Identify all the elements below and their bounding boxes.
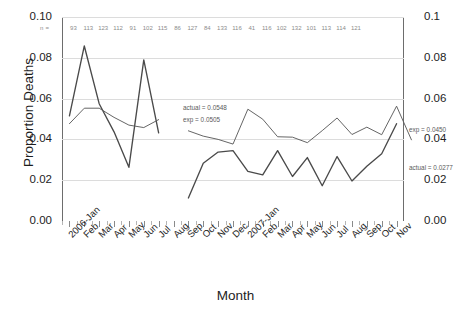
y-tick-label: 0.04 — [14, 132, 52, 144]
annotation-exp-right: exp = 0.0450 — [409, 126, 446, 133]
x-tick-minor — [62, 221, 63, 225]
n-value: 115 — [158, 25, 168, 31]
n-value: 113 — [84, 25, 94, 31]
n-value: 91 — [130, 25, 137, 31]
n-value: 133 — [217, 25, 227, 31]
n-value: 112 — [113, 25, 123, 31]
y-tick-label: 0.08 — [424, 51, 464, 63]
y-tick-label: 0.08 — [14, 51, 52, 63]
x-tick — [159, 221, 160, 227]
n-row-label: n = — [40, 25, 49, 31]
n-value: 101 — [306, 25, 316, 31]
x-tick — [174, 221, 175, 227]
data-series-lines — [62, 17, 404, 221]
series-line-expected-period-1 — [69, 108, 158, 127]
y-tick-label: 0.00 — [424, 214, 464, 226]
x-tick — [397, 221, 398, 227]
n-value: 123 — [98, 25, 108, 31]
n-value: 102 — [143, 25, 153, 31]
x-axis-title: Month — [0, 288, 471, 303]
x-tick — [352, 221, 353, 227]
y-tick-label: 0.02 — [14, 173, 52, 185]
annotation-exp-left: exp = 0.0505 — [183, 116, 220, 123]
y-tick-label: 0.00 — [14, 214, 52, 226]
series-line-actual-period-1 — [69, 46, 158, 167]
y-tick-label: 0.04 — [424, 132, 464, 144]
y-tick-label: 0.06 — [14, 92, 52, 104]
series-line-expected-period-2 — [188, 106, 411, 144]
y-tick-label: 0.1 — [424, 10, 464, 22]
x-tick-minor — [345, 221, 346, 225]
n-value: 41 — [249, 25, 256, 31]
annotation-actual-right: actual = 0.0277 — [409, 164, 453, 171]
series-line-actual-period-2 — [188, 124, 396, 198]
n-value: 116 — [262, 25, 272, 31]
n-value: 86 — [174, 25, 181, 31]
y-tick-label: 0.10 — [14, 10, 52, 22]
n-value: 113 — [321, 25, 331, 31]
n-value: 132 — [291, 25, 301, 31]
n-value: 114 — [336, 25, 346, 31]
x-tick — [129, 221, 130, 227]
n-value: 102 — [277, 25, 287, 31]
annotation-actual-left: actual = 0.0548 — [183, 104, 227, 111]
n-value: 127 — [187, 25, 197, 31]
y-tick-label: 0.02 — [424, 173, 464, 185]
y-tick-label: 0.06 — [424, 92, 464, 104]
n-value: 84 — [204, 25, 211, 31]
n-value: 116 — [232, 25, 242, 31]
n-value: 93 — [70, 25, 77, 31]
n-value: 121 — [351, 25, 361, 31]
chart-figure: Proportion Deaths 0.100.080.060.040.020.… — [0, 0, 471, 316]
